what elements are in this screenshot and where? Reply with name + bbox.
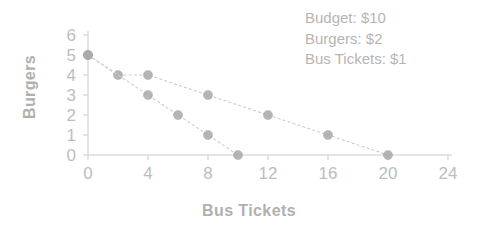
- x-tick-label: 8: [203, 165, 212, 182]
- plot-svg: [88, 35, 488, 165]
- y-axis-title: Burgers: [21, 27, 39, 147]
- annotation-burgers: Burgers: $2: [305, 29, 407, 50]
- data-point: [383, 150, 392, 159]
- chart-figure: Burgers 0123456 04812162024 Bus Tickets …: [0, 0, 498, 233]
- x-axis-title: Bus Tickets: [0, 202, 498, 220]
- x-tick-label: 0: [83, 165, 92, 182]
- annotation-budget: Budget: $10: [305, 8, 407, 29]
- y-tick-label: 6: [52, 27, 76, 44]
- data-point: [143, 70, 152, 79]
- data-point: [323, 130, 332, 139]
- y-tick-label: 2: [52, 107, 76, 124]
- x-tick-label: 16: [319, 165, 338, 182]
- x-tick-label: 24: [439, 165, 458, 182]
- x-tick-label: 20: [379, 165, 398, 182]
- data-point: [203, 90, 212, 99]
- data-point: [233, 150, 242, 159]
- data-point: [83, 50, 92, 59]
- y-tick-label: 1: [52, 127, 76, 144]
- x-tick-label: 12: [259, 165, 278, 182]
- y-tick-label: 0: [52, 147, 76, 164]
- annotation-bus-tickets: Bus Tickets: $1: [305, 49, 407, 70]
- data-point: [263, 110, 272, 119]
- data-point: [143, 90, 152, 99]
- data-point: [203, 130, 212, 139]
- y-tick-label: 3: [52, 87, 76, 104]
- data-point: [113, 70, 122, 79]
- series-line-budget-line-steep: [88, 55, 238, 155]
- data-point: [173, 110, 182, 119]
- y-tick-label: 5: [52, 47, 76, 64]
- y-tick-label: 4: [52, 67, 76, 84]
- x-tick-label: 4: [143, 165, 152, 182]
- annotation-block: Budget: $10 Burgers: $2 Bus Tickets: $1: [305, 8, 407, 70]
